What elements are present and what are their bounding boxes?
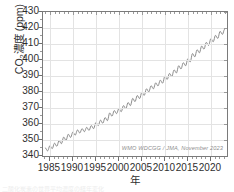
x-axis-tick	[95, 157, 96, 161]
gridline-horizontal	[43, 108, 227, 109]
x-axis-minor-tick	[127, 157, 128, 159]
gridline-vertical	[119, 12, 120, 156]
x-axis-minor-tick-top	[206, 12, 207, 14]
x-axis-minor-tick	[224, 157, 225, 159]
x-axis-minor-tick	[58, 157, 59, 159]
x-axis-minor-tick	[44, 157, 45, 159]
x-axis-minor-tick-top	[82, 12, 83, 14]
x-axis-minor-tick-top	[179, 12, 180, 14]
x-axis-title: 年	[42, 174, 228, 186]
gridline-horizontal	[43, 28, 227, 29]
x-axis-minor-tick	[215, 157, 216, 159]
x-axis-minor-tick-top	[151, 12, 152, 14]
y-axis-tick-right	[224, 60, 227, 61]
x-axis-tick-top	[188, 12, 189, 15]
gridline-horizontal	[43, 60, 227, 61]
x-axis-minor-tick-top	[91, 12, 92, 14]
x-axis-minor-tick-top	[114, 12, 115, 14]
x-axis-minor-tick-top	[45, 12, 46, 14]
x-axis-minor-tick-top	[156, 12, 157, 14]
x-axis-minor-tick	[150, 157, 151, 159]
x-axis-tick-top	[73, 12, 74, 15]
x-axis-minor-tick	[113, 157, 114, 159]
x-axis-minor-tick	[155, 157, 156, 159]
x-axis-minor-tick	[77, 157, 78, 159]
x-axis-minor-tick-top	[216, 12, 217, 14]
gridline-vertical	[50, 12, 51, 156]
x-axis-minor-tick	[178, 157, 179, 159]
x-axis-minor-tick-top	[64, 12, 65, 14]
x-axis-minor-tick-top	[197, 12, 198, 14]
x-axis-minor-tick	[63, 157, 64, 159]
x-axis-minor-tick	[169, 157, 170, 159]
gridline-horizontal	[43, 44, 227, 45]
x-axis-minor-tick	[173, 157, 174, 159]
x-axis-minor-tick	[86, 157, 87, 159]
x-axis-minor-tick	[54, 157, 55, 159]
y-axis-tick-right	[224, 92, 227, 93]
x-axis-minor-tick-top	[87, 12, 88, 14]
x-axis-minor-tick	[109, 157, 110, 159]
x-axis-minor-tick	[123, 157, 124, 159]
gridline-vertical	[142, 12, 143, 156]
x-axis-minor-tick	[205, 157, 206, 159]
x-axis-minor-tick-top	[220, 12, 221, 14]
attribution-text: WMO WDCGG / JMA, November 2023	[122, 145, 223, 152]
x-axis-minor-tick-top	[225, 12, 226, 14]
x-axis-tick	[118, 157, 119, 161]
x-axis-tick-top	[165, 12, 166, 15]
x-axis-minor-tick	[100, 157, 101, 159]
x-axis-tick-top	[119, 12, 120, 15]
x-axis-minor-tick	[136, 157, 137, 159]
y-axis-tick-right	[224, 44, 227, 45]
gridline-vertical	[188, 12, 189, 156]
x-axis-minor-tick	[196, 157, 197, 159]
gridline-vertical	[165, 12, 166, 156]
gridline-horizontal	[43, 76, 227, 77]
plot-area: WMO WDCGG / JMA, November 2023	[42, 11, 228, 157]
x-axis-minor-tick	[219, 157, 220, 159]
gridlines	[43, 12, 227, 156]
gridline-horizontal	[43, 140, 227, 141]
x-axis-tick	[164, 157, 165, 161]
x-axis-minor-tick-top	[183, 12, 184, 14]
x-axis-minor-tick-top	[128, 12, 129, 14]
x-axis-minor-tick-top	[147, 12, 148, 14]
clipped-caption: 二酸化炭素の世界平均濃度の経年変化	[2, 186, 132, 192]
x-axis-tick-top	[211, 12, 212, 15]
x-axis-minor-tick-top	[124, 12, 125, 14]
y-axis-tick-right	[224, 140, 227, 141]
x-axis-minor-tick-top	[78, 12, 79, 14]
x-axis-tick-top	[50, 12, 51, 15]
y-axis-tick-right	[224, 28, 227, 29]
x-axis-minor-tick	[81, 157, 82, 159]
x-axis-minor-tick-top	[59, 12, 60, 14]
gridline-vertical	[211, 12, 212, 156]
co2-concentration-chart: CO2濃度 (ppm) 3403503603703803904004104204…	[0, 0, 234, 192]
x-axis-minor-tick	[182, 157, 183, 159]
x-axis-tick-top	[142, 12, 143, 15]
x-axis-minor-tick	[201, 157, 202, 159]
x-axis-minor-tick-top	[174, 12, 175, 14]
x-axis-minor-tick	[67, 157, 68, 159]
y-axis-tick-right	[224, 76, 227, 77]
gridline-horizontal	[43, 92, 227, 93]
x-axis-minor-tick-top	[55, 12, 56, 14]
x-axis-minor-tick	[192, 157, 193, 159]
x-axis-minor-tick-top	[170, 12, 171, 14]
gridline-horizontal	[43, 124, 227, 125]
x-axis-minor-tick-top	[68, 12, 69, 14]
x-axis-minor-tick-top	[202, 12, 203, 14]
x-axis-tick-labels: 19851990199520002005201020152020	[0, 162, 234, 174]
x-axis-minor-tick-top	[105, 12, 106, 14]
x-axis-minor-tick-top	[193, 12, 194, 14]
x-axis-minor-tick-top	[110, 12, 111, 14]
x-axis-minor-tick	[132, 157, 133, 159]
x-axis-minor-tick-top	[101, 12, 102, 14]
gridline-vertical	[96, 12, 97, 156]
x-axis-tick	[72, 157, 73, 161]
x-axis-minor-tick	[104, 157, 105, 159]
x-axis-minor-tick	[159, 157, 160, 159]
x-axis-tick	[141, 157, 142, 161]
x-axis-minor-tick-top	[133, 12, 134, 14]
